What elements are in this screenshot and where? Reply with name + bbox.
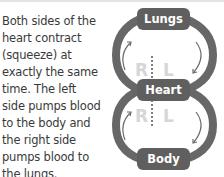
body-node: Body (137, 148, 190, 170)
heart-label: Heart (145, 83, 182, 97)
arrow-icon (123, 43, 130, 70)
right-side-label: R (135, 106, 148, 126)
arrow-icon (194, 112, 201, 142)
lungs-node: Lungs (137, 8, 190, 30)
circulation-diagram: R L R L Lungs Heart Body (0, 0, 224, 177)
left-side-label: L (163, 106, 174, 126)
right-side-label: R (135, 60, 148, 80)
arrow-icon (123, 113, 130, 140)
body-label: Body (147, 152, 180, 166)
left-side-label: L (163, 60, 174, 80)
arrow-icon (194, 42, 201, 72)
lungs-label: Lungs (144, 12, 183, 26)
heart-node: Heart (137, 79, 190, 101)
